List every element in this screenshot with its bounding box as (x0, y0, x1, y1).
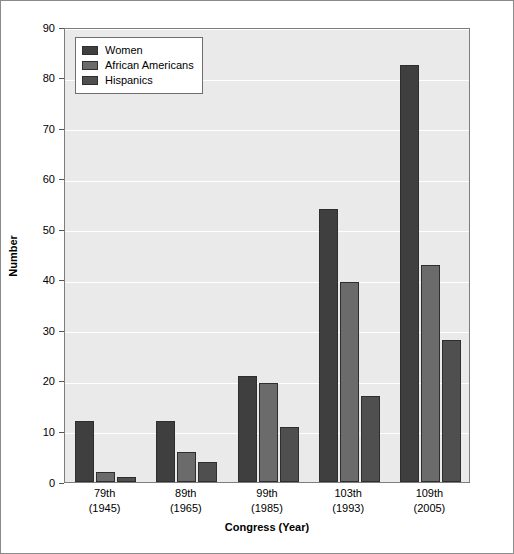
x-axis-label-congress: 79th (64, 486, 145, 501)
bars-layer (65, 29, 469, 482)
x-axis-label-congress: 109th (389, 486, 470, 501)
legend-item-label: Women (105, 45, 143, 56)
x-axis-label: 79th(1945) (64, 486, 145, 516)
x-axis-label-year: (2005) (389, 501, 470, 516)
y-axis-tick-label: 60 (43, 174, 59, 185)
bar[interactable] (238, 376, 257, 482)
y-axis-tick-label: 30 (43, 326, 59, 337)
x-axis-label-congress: 103th (308, 486, 389, 501)
chart-figure: Number 0102030405060708090 79th(1945)89t… (0, 0, 514, 554)
bar[interactable] (280, 427, 299, 482)
bar[interactable] (75, 421, 94, 482)
x-axis-label: 99th(1985) (226, 486, 307, 516)
x-axis-label: 89th(1965) (145, 486, 226, 516)
plot-area (64, 28, 470, 483)
x-axis-label-year: (1985) (226, 501, 307, 516)
bar[interactable] (259, 383, 278, 482)
bar[interactable] (156, 421, 175, 482)
legend-item[interactable]: African Americans (82, 58, 194, 73)
y-axis-tick-label: 10 (43, 427, 59, 438)
x-axis-label-year: (1945) (64, 501, 145, 516)
x-axis-labels: 79th(1945)89th(1965)99th(1985)103th(1993… (64, 486, 470, 522)
bar[interactable] (361, 396, 380, 482)
bar[interactable] (319, 209, 338, 482)
bar[interactable] (177, 452, 196, 482)
y-axis-tick-label: 40 (43, 275, 59, 286)
legend-item-label: African Americans (105, 60, 194, 71)
bar-group (156, 29, 217, 482)
bar-group (238, 29, 299, 482)
legend-item-label: Hispanics (105, 75, 153, 86)
y-axis-tick-label: 90 (43, 23, 59, 34)
x-axis-title: Congress (Year) (64, 521, 470, 533)
legend-swatch (82, 76, 98, 85)
bar[interactable] (340, 282, 359, 482)
x-axis-label: 103th(1993) (308, 486, 389, 516)
y-axis-tick-label: 70 (43, 124, 59, 135)
legend-item[interactable]: Hispanics (82, 73, 194, 88)
legend-item[interactable]: Women (82, 43, 194, 58)
bar[interactable] (442, 340, 461, 482)
x-axis-label-year: (1965) (145, 501, 226, 516)
legend-swatch (82, 46, 98, 55)
x-axis-label: 109th(2005) (389, 486, 470, 516)
y-axis-tick-label: 80 (43, 73, 59, 84)
y-axis-tick-label: 0 (49, 478, 59, 489)
y-axis-tick-label: 20 (43, 376, 59, 387)
x-axis-label-year: (1993) (308, 501, 389, 516)
bar-group (319, 29, 380, 482)
bar[interactable] (117, 477, 136, 482)
y-axis-ticks: 0102030405060708090 (1, 28, 64, 483)
bar[interactable] (421, 265, 440, 482)
x-axis-label-congress: 99th (226, 486, 307, 501)
bar-group (400, 29, 461, 482)
bar[interactable] (96, 472, 115, 482)
legend-swatch (82, 61, 98, 70)
chart-legend: WomenAfrican AmericansHispanics (75, 37, 203, 94)
bar-group (75, 29, 136, 482)
bar[interactable] (198, 462, 217, 482)
bar[interactable] (400, 65, 419, 482)
y-axis-tick-label: 50 (43, 225, 59, 236)
x-axis-label-congress: 89th (145, 486, 226, 501)
